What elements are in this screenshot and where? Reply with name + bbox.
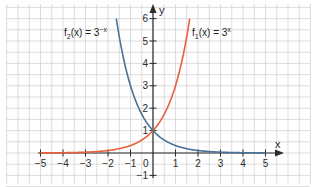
- y-axis-label: y: [159, 4, 165, 16]
- x-axis-label: x: [275, 138, 281, 150]
- exponential-functions-chart: x y 0 −5−4−3−2−112345−1123456 f2(x) = 3−…: [0, 0, 312, 187]
- x-tick-label: 5: [263, 158, 269, 169]
- y-tick-label: −1: [137, 170, 149, 181]
- y-tick-label: 3: [142, 80, 148, 91]
- y-tick-label: 4: [142, 58, 148, 69]
- x-tick-label: −5: [35, 158, 47, 169]
- origin-label: 0: [143, 158, 149, 169]
- x-tick-label: 3: [218, 158, 224, 169]
- y-tick-label: 6: [142, 13, 148, 24]
- x-tick-label: −4: [57, 158, 69, 169]
- x-axis-arrow-icon: [275, 150, 284, 157]
- x-tick-label: 1: [173, 158, 179, 169]
- y-tick-label: 2: [142, 103, 148, 114]
- series-label-f1: f1(x) = 3x: [192, 26, 231, 40]
- y-tick-label: 5: [142, 36, 148, 47]
- y-axis-arrow-icon: [150, 4, 157, 13]
- x-tick-label: 4: [240, 158, 246, 169]
- y-tick-label: 1: [142, 125, 148, 136]
- series-label-f2: f2(x) = 3−x: [64, 26, 107, 40]
- x-tick-label: −3: [80, 158, 92, 169]
- x-tick-label: −1: [125, 158, 137, 169]
- x-tick-label: −2: [102, 158, 114, 169]
- x-tick-label: 2: [195, 158, 201, 169]
